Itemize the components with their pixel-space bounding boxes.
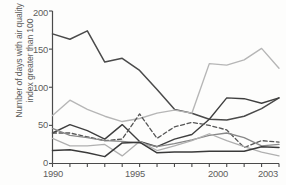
data-line-series-2 <box>53 98 280 147</box>
plot-area <box>0 0 286 185</box>
data-line-series-3 <box>53 48 280 121</box>
data-line-series-5 <box>53 128 280 146</box>
axis-lines <box>53 11 280 164</box>
data-series-group <box>53 31 280 157</box>
data-line-series-1 <box>53 31 280 120</box>
data-line-series-7 <box>53 142 280 156</box>
air-quality-line-chart: Number of days with air qualityindex gre… <box>0 0 286 185</box>
